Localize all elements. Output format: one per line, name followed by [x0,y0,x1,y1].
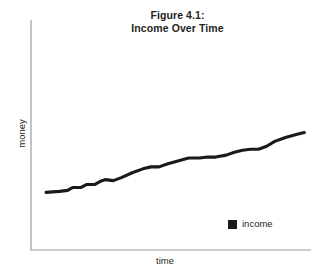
legend-marker-income-icon [228,220,237,229]
chart-legend: income [228,219,273,229]
x-axis-label: time [110,255,220,266]
figure-container: Figure 4.1: Income Over Time time money … [0,0,325,280]
series-line-income [46,133,304,193]
y-axis-label: money [16,104,27,164]
legend-label-income: income [242,219,273,229]
plot-area [0,0,325,280]
